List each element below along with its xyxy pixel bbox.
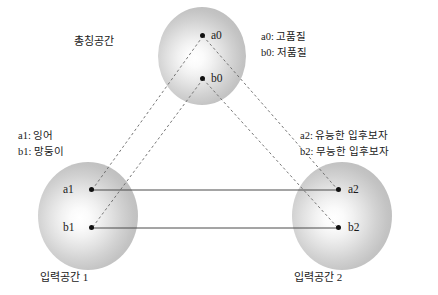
node-dot-a1 [89,187,94,192]
node-dot-b0 [200,76,205,81]
legend-input2-line-2: b2: 무능한 입후보자 [300,144,389,160]
node-dot-b2 [336,225,341,230]
legend-input1-line-1: a1: 잉어 [18,128,64,144]
legend-generic-line-2: b0: 저품질 [261,45,307,61]
legend-input1-line-2: b1: 망둥이 [18,144,64,160]
legend-input-space-1: a1: 잉어 b1: 망둥이 [18,128,64,161]
node-label-b0: b0 [211,73,223,85]
legend-input-space-2: a2: 유능한 입후보자 b2: 무능한 입후보자 [300,128,389,161]
diagram-canvas: a0 b0 a1 b1 a2 b2 총칭공간 입력공간 1 입력공간 2 a0:… [0,0,438,295]
space-label-input-1: 입력공간 1 [40,272,88,283]
space-label-generic: 총칭공간 [74,36,114,47]
space-label-input-2: 입력공간 2 [294,272,342,283]
node-dot-a2 [336,187,341,192]
node-dot-b1 [89,225,94,230]
node-label-b2: b2 [348,222,360,234]
legend-generic-line-1: a0: 고품질 [261,29,307,45]
node-dot-a0 [200,33,205,38]
node-label-a2: a2 [348,184,359,196]
dashed-line-b0-b1 [92,79,203,228]
dashed-line-a0-a1 [92,36,203,190]
node-label-a1: a1 [63,184,74,196]
legend-generic-space: a0: 고품질 b0: 저품질 [261,29,307,62]
node-label-a0: a0 [211,30,222,42]
legend-input2-line-1: a2: 유능한 입후보자 [300,128,389,144]
node-label-b1: b1 [63,222,75,234]
